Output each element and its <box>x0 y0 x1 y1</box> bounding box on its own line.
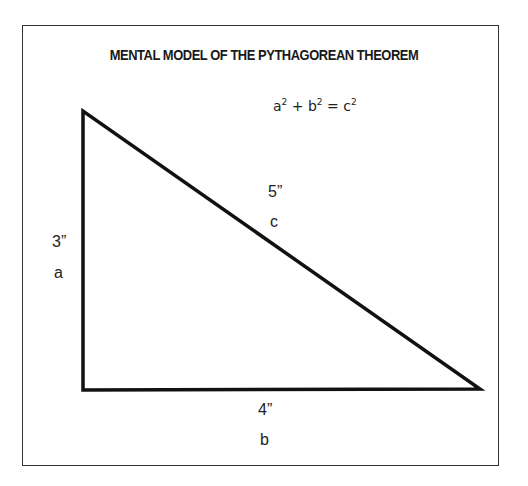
side-a-name: a <box>54 264 63 282</box>
side-a-length: 3” <box>52 233 66 251</box>
side-c-name: c <box>270 213 278 231</box>
side-c-length: 5” <box>268 183 282 201</box>
side-b-length: 4” <box>258 401 272 419</box>
side-b-name: b <box>260 431 269 449</box>
